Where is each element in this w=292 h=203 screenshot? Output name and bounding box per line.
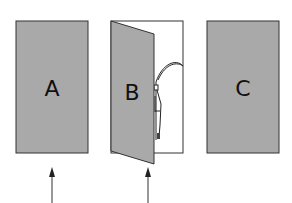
door-b-label: B — [124, 80, 139, 105]
door-a: A — [16, 21, 88, 153]
arrow-under-b — [145, 167, 151, 203]
door-b: B — [111, 21, 183, 164]
door-a-label: A — [44, 76, 59, 101]
arrow-under-a — [49, 167, 55, 203]
three-doors-diagram: A B C — [0, 0, 292, 203]
door-c: C — [207, 21, 279, 153]
arrow-head-b — [145, 167, 151, 177]
door-c-label: C — [235, 76, 250, 101]
arrow-head-a — [49, 167, 55, 177]
